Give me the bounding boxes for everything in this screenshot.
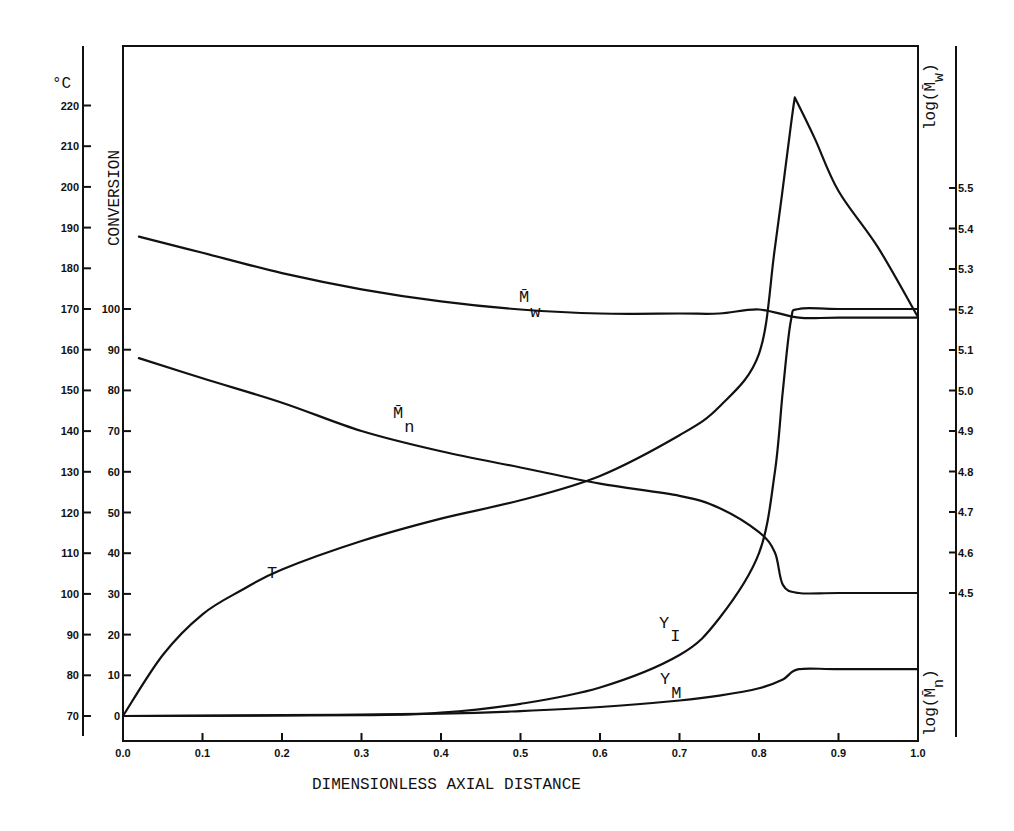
x-tick-label: 0.3: [354, 747, 369, 759]
log-tick-label: 4.7: [958, 506, 973, 518]
x-ticks: 0.00.10.20.30.40.50.60.70.80.91.0: [115, 733, 925, 759]
log-mw-axis-label: log(M̄w): [922, 63, 948, 130]
curve-label-ym: YM: [660, 670, 681, 703]
svg-text:log(M̄n): log(M̄n): [922, 669, 948, 736]
log-tick-label: 4.5: [958, 587, 973, 599]
x-tick-label: 0.9: [831, 747, 846, 759]
x-tick-label: 1.0: [910, 747, 925, 759]
conversion-tick-label: 80: [108, 384, 120, 396]
conversion-ticks: 1009080706050403020100: [102, 303, 131, 722]
conversion-tick-label: 70: [108, 425, 120, 437]
log-tick-label: 4.6: [958, 547, 973, 559]
temperature-tick-label: 170: [61, 303, 79, 315]
temperature-tick-label: 90: [67, 629, 79, 641]
temperature-tick-label: 220: [61, 100, 79, 112]
log-tick-label: 5.1: [958, 344, 973, 356]
conversion-tick-label: 0: [114, 710, 120, 722]
temperature-tick-label: 130: [61, 466, 79, 478]
plot-frame: [123, 46, 918, 741]
log-tick-label: 4.8: [958, 466, 973, 478]
x-tick-label: 0.8: [751, 747, 766, 759]
temperature-tick-label: 200: [61, 181, 79, 193]
temperature-ticks: 2202102001901801701601501401301201101009…: [61, 100, 91, 723]
monomer-conversion-curve: [123, 668, 918, 716]
conversion-tick-label: 20: [108, 629, 120, 641]
temperature-tick-label: 190: [61, 222, 79, 234]
conversion-axis-label: CONVERSION: [106, 150, 124, 246]
log-tick-label: 5.2: [958, 304, 973, 316]
x-tick-label: 0.4: [433, 747, 449, 759]
curve-label-t: T: [267, 564, 277, 583]
x-axis-label: DIMENSIONLESS AXIAL DISTANCE: [312, 776, 581, 794]
initiator-conversion-curve: [123, 308, 918, 716]
conversion-tick-label: 10: [108, 669, 120, 681]
conversion-tick-label: 30: [108, 588, 120, 600]
curve-label-yi: YI: [659, 614, 680, 646]
x-tick-label: 0.0: [115, 747, 130, 759]
x-tick-label: 0.6: [592, 747, 607, 759]
temperature-tick-label: 140: [61, 425, 79, 437]
mn-curve: [139, 358, 918, 593]
temperature-tick-label: 100: [61, 588, 79, 600]
log-tick-label: 4.9: [958, 425, 973, 437]
temperature-tick-label: 70: [67, 710, 79, 722]
log-tick-label: 5.3: [958, 263, 973, 275]
conversion-tick-label: 60: [108, 466, 120, 478]
conversion-tick-label: 100: [102, 303, 120, 315]
curve-label-mn: M̄n: [393, 404, 414, 437]
svg-text:log(M̄w): log(M̄w): [922, 63, 948, 130]
temperature-unit-label: °C: [52, 75, 71, 93]
temperature-tick-label: 180: [61, 262, 79, 274]
conversion-tick-label: 50: [108, 507, 120, 519]
chart: 2202102001901801701601501401301201101009…: [0, 0, 1014, 831]
temperature-tick-label: 120: [61, 507, 79, 519]
temperature-tick-label: 80: [67, 669, 79, 681]
curve-label-mw: M̄w: [519, 288, 541, 322]
temperature-tick-label: 210: [61, 140, 79, 152]
x-tick-label: 0.2: [274, 747, 289, 759]
log-ticks: 5.55.45.35.25.15.04.94.84.74.64.5: [949, 182, 974, 599]
log-tick-label: 5.4: [958, 223, 974, 235]
log-tick-label: 5.0: [958, 385, 973, 397]
conversion-tick-label: 40: [108, 547, 120, 559]
temperature-curve: [123, 97, 918, 716]
conversion-tick-label: 90: [108, 344, 120, 356]
log-mn-axis-label: log(M̄n): [922, 669, 948, 736]
x-tick-label: 0.7: [672, 747, 687, 759]
log-tick-label: 5.5: [958, 182, 973, 194]
x-tick-label: 0.1: [195, 747, 210, 759]
x-tick-label: 0.5: [513, 747, 528, 759]
temperature-tick-label: 110: [61, 547, 79, 559]
temperature-tick-label: 150: [61, 384, 79, 396]
temperature-tick-label: 160: [61, 344, 79, 356]
